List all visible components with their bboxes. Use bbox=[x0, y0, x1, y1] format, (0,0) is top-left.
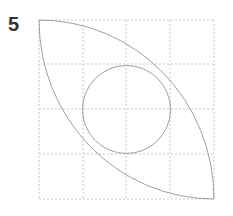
grid bbox=[39, 20, 214, 199]
geometry-diagram bbox=[0, 0, 233, 216]
